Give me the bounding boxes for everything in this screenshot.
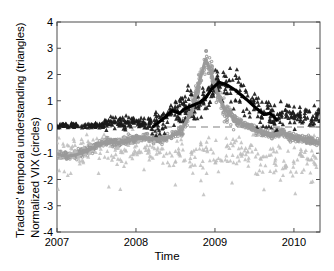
figure-container: 2007200820092010 -4-3-2-101234 Traders' … <box>0 0 334 271</box>
chart-canvas: 2007200820092010 -4-3-2-101234 <box>0 0 334 271</box>
svg-text:-1: -1 <box>43 147 53 159</box>
svg-text:1: 1 <box>47 95 53 107</box>
svg-text:4: 4 <box>47 16 53 28</box>
svg-text:-3: -3 <box>43 200 53 212</box>
y-axis-tick-labels: -4-3-2-101234 <box>43 16 53 238</box>
x-axis-label: Time <box>0 250 334 262</box>
y-axis-label-line2: Normalized VIX (circles) <box>29 117 41 238</box>
svg-text:0: 0 <box>47 121 53 133</box>
svg-text:-4: -4 <box>43 226 53 238</box>
y-axis-label-line1: Traders' temporal understanding (triangl… <box>14 23 26 238</box>
svg-text:3: 3 <box>47 42 53 54</box>
x-axis-tick-labels: 2007200820092010 <box>45 236 306 248</box>
svg-text:2009: 2009 <box>203 236 227 248</box>
svg-text:2: 2 <box>47 69 53 81</box>
svg-text:-2: -2 <box>43 174 53 186</box>
svg-text:2010: 2010 <box>282 236 306 248</box>
svg-text:2008: 2008 <box>124 236 148 248</box>
